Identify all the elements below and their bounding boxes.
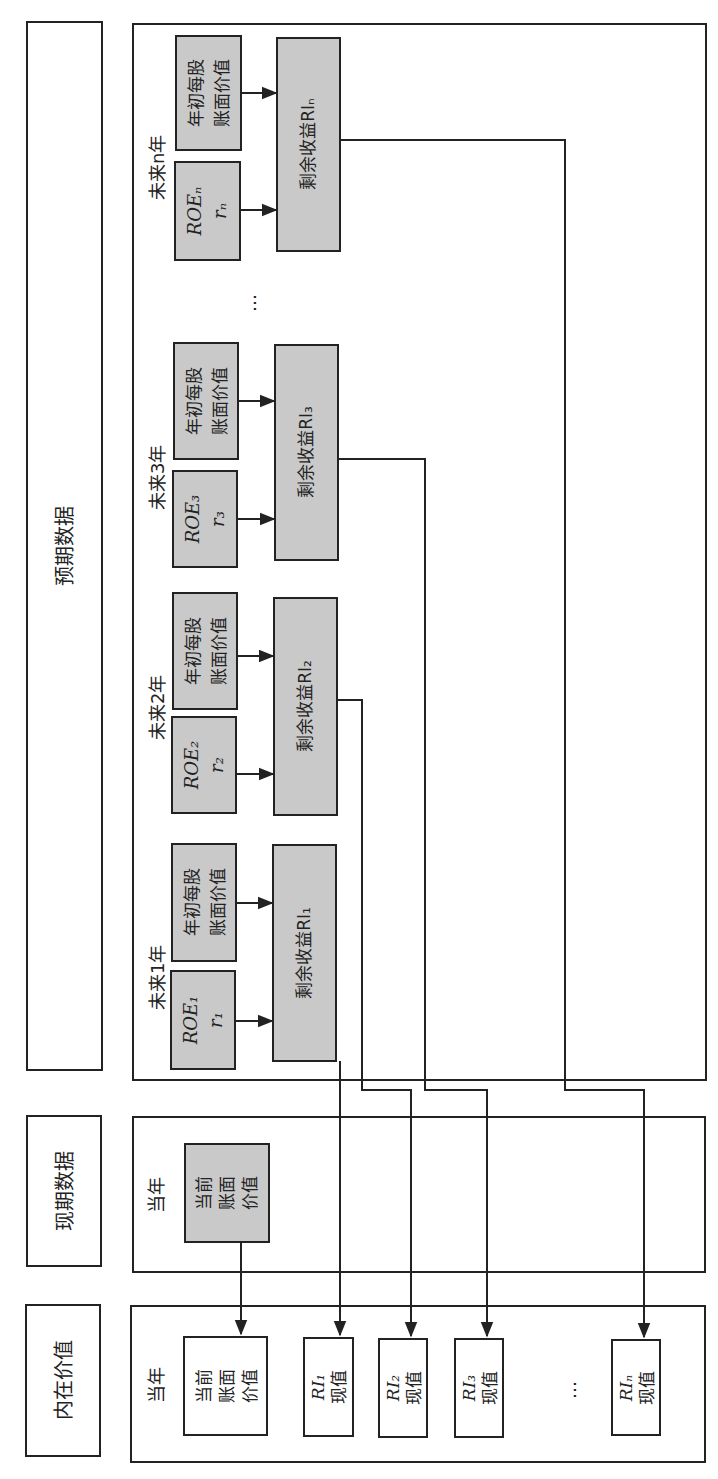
bv-1-line2: 账面价值 xyxy=(208,868,228,936)
intrinsic-ri2-line1: RI₂ xyxy=(383,1375,403,1403)
intrinsic-item-rin: RIₙ 现值 xyxy=(612,1340,660,1435)
roe-2: ROE₂ xyxy=(181,741,202,791)
bv-1-line1: 年初每股 xyxy=(182,868,202,936)
year-1-group: ROE₁ r₁ 年初每股 账面价值 剩余收益RI₁ xyxy=(171,844,336,1069)
intrinsic-ri2-line2: 现值 xyxy=(404,1371,424,1405)
current-year-label: 当年 xyxy=(146,1177,167,1213)
r-1: r₁ xyxy=(205,1012,226,1028)
intrinsic-ri1-line1: RI₁ xyxy=(308,1374,328,1401)
year-3-label: 未来3年 xyxy=(147,445,168,510)
intrinsic-item-ri2: RI₂ 现值 xyxy=(379,1339,427,1437)
section-current-label: 现期数据 xyxy=(53,1151,77,1231)
bv-n-line2: 账面价值 xyxy=(212,59,232,127)
current-book-line3: 价值 xyxy=(240,1176,260,1210)
section-expected: 预期数据 xyxy=(27,22,102,1070)
intrinsic-year-label: 当年 xyxy=(146,1367,167,1403)
intrinsic-item-ri3: RI₃ 现值 xyxy=(455,1339,503,1437)
r-n: rₙ xyxy=(209,203,230,219)
bv-3-line2: 账面价值 xyxy=(210,367,230,435)
bv-n-line1: 年初每股 xyxy=(186,59,206,127)
intrinsic-book-line3: 价值 xyxy=(240,1369,260,1403)
intrinsic-item-book: 当前 账面 价值 xyxy=(184,1337,267,1435)
intrinsic-book-line1: 当前 xyxy=(194,1369,214,1403)
year-1-label: 未来1年 xyxy=(147,945,168,1010)
r-2: r₂ xyxy=(206,757,227,773)
roe-n: ROEₙ xyxy=(184,187,205,237)
year-2-group: ROE₂ r₂ 年初每股 账面价值 剩余收益RI₂ xyxy=(172,593,337,815)
intrinsic-ri3-line2: 现值 xyxy=(480,1371,500,1405)
bv-3-line1: 年初每股 xyxy=(184,367,204,435)
intrinsic-ellipsis: … xyxy=(559,1381,580,1399)
intrinsic-ri1-line2: 现值 xyxy=(329,1370,349,1404)
ri-n-label: 剩余收益RIₙ xyxy=(298,98,318,190)
intrinsic-rin-line1: RIₙ xyxy=(616,1375,636,1403)
ri-3-label: 剩余收益RI₃ xyxy=(296,406,316,498)
year-n-label: 未来n年 xyxy=(147,135,168,200)
ri-1-label: 剩余收益RI₁ xyxy=(294,907,314,999)
intrinsic-book-line2: 账面 xyxy=(217,1369,237,1403)
section-intrinsic-label: 内在价值 xyxy=(52,1340,76,1420)
section-current: 现期数据 xyxy=(27,1116,101,1266)
intrinsic-rin-line2: 现值 xyxy=(637,1371,657,1405)
ri-2-label: 剩余收益RI₂ xyxy=(295,660,315,752)
roe-1: ROE₁ xyxy=(180,996,201,1046)
section-intrinsic: 内在价值 xyxy=(26,1305,100,1456)
year-2-label: 未来2年 xyxy=(147,675,168,740)
bv-2-line2: 账面价值 xyxy=(209,617,229,685)
r-3: r₃ xyxy=(207,511,228,527)
current-book-line2: 账面 xyxy=(217,1176,237,1210)
intrinsic-ri3-line1: RI₃ xyxy=(459,1375,479,1403)
year-n-group: ROEₙ rₙ 年初每股 账面价值 剩余收益RIₙ xyxy=(175,36,340,260)
roe-3: ROE₃ xyxy=(182,495,203,545)
rotated-diagram: 预期数据 现期数据 内在价值 未来1年 未来2年 未来3年 未来n年 ROE₁ … xyxy=(0,0,718,1479)
intrinsic-item-ri1: RI₁ 现值 xyxy=(304,1338,353,1436)
bv-2-line1: 年初每股 xyxy=(183,617,203,685)
section-expected-label: 预期数据 xyxy=(53,506,77,586)
current-book-line1: 当前 xyxy=(194,1176,214,1210)
year-3-group: ROE₃ r₃ 年初每股 账面价值 剩余收益RI₃ xyxy=(173,343,338,567)
future-ellipsis: … xyxy=(239,294,260,312)
